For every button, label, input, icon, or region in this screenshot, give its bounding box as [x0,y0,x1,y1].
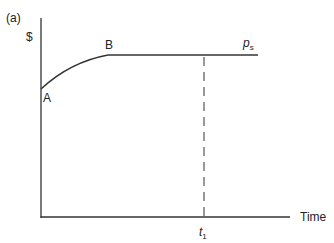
y-axis-label: $ [26,31,33,43]
ps-line-label: ps [243,37,254,52]
x-axis-label: Time [300,211,326,223]
point-a-label: A [43,92,51,104]
t1-tick-label: t1 [199,226,207,241]
point-b-label: B [105,39,113,51]
chart-canvas [0,0,334,243]
ps-symbol: p [243,36,250,50]
ps-subscript: s [250,43,254,52]
t1-subscript: 1 [202,232,206,241]
panel-label: (a) [6,12,21,24]
curve-a-to-b [41,55,108,89]
